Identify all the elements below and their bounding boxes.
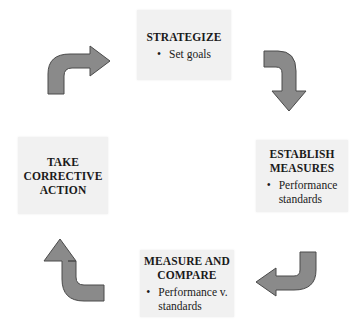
bullet-text: Performance v. standards xyxy=(158,285,228,313)
step-title-line: MEASURES xyxy=(269,161,334,175)
step-measure-and-compare: MEASURE AND COMPARE • Performance v. sta… xyxy=(140,250,234,317)
step-title-line: ESTABLISH xyxy=(269,147,334,161)
bullet-item: • Performance v. standards xyxy=(146,285,228,313)
bullet-text-line: standards xyxy=(158,299,228,313)
step-take-corrective-action: TAKE CORRECTIVE ACTION xyxy=(18,137,108,214)
step-title-line: ACTION xyxy=(24,183,103,197)
step-establish-measures: ESTABLISH MEASURES • Performance standar… xyxy=(256,140,348,212)
step-title-line: MEASURE AND xyxy=(144,254,230,268)
bullet-text: Performance standards xyxy=(279,178,338,206)
bullet-item: • Set goals xyxy=(157,47,211,61)
bullet-icon: • xyxy=(267,178,279,206)
step-title: ESTABLISH MEASURES xyxy=(269,147,334,175)
bullet-text-line: Performance v. xyxy=(158,285,228,299)
step-title-line: COMPARE xyxy=(144,268,230,282)
step-bullets: • Performance v. standards xyxy=(146,285,228,313)
curved-arrow-right-down-icon xyxy=(262,49,310,113)
curved-arrow-left-up-icon xyxy=(42,237,106,303)
step-title: MEASURE AND COMPARE xyxy=(144,254,230,282)
bullet-icon: • xyxy=(157,47,169,61)
step-strategize: STRATEGIZE • Set goals xyxy=(137,10,231,80)
bullet-text: Set goals xyxy=(169,47,211,61)
curved-arrow-down-left-icon xyxy=(254,250,320,298)
step-title-line: CORRECTIVE xyxy=(24,169,103,183)
bullet-text-line: standards xyxy=(279,192,338,206)
bullet-item: • Performance standards xyxy=(267,178,338,206)
bullet-text-line: Performance xyxy=(279,178,338,192)
bullet-icon: • xyxy=(146,285,158,313)
step-title-line: STRATEGIZE xyxy=(147,30,222,44)
step-bullets: • Performance standards xyxy=(267,178,338,206)
curved-arrow-up-right-icon xyxy=(46,44,112,96)
step-title: STRATEGIZE xyxy=(147,30,222,44)
step-title: TAKE CORRECTIVE ACTION xyxy=(24,155,103,197)
step-bullets: • Set goals xyxy=(157,47,211,61)
step-title-line: TAKE xyxy=(24,155,103,169)
